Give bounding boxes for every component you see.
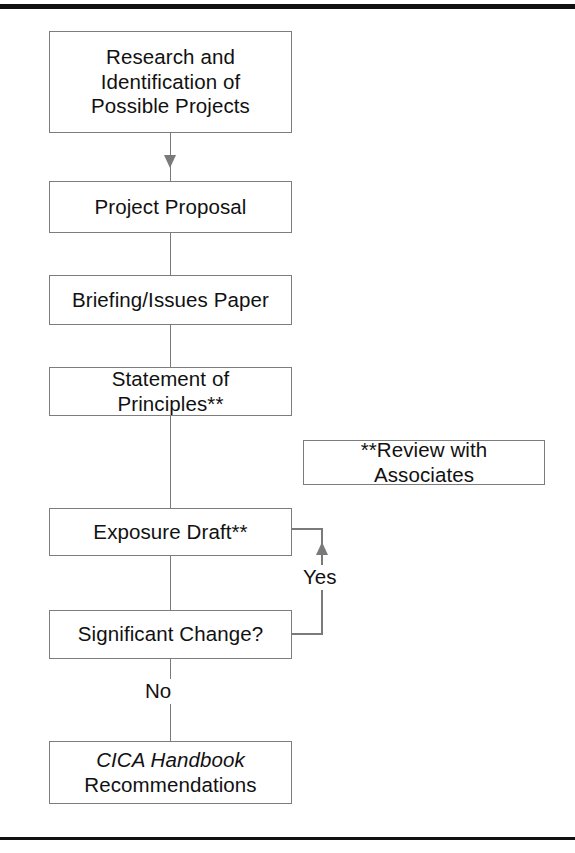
node-research[interactable]: Research and Identification of Possible … (49, 31, 292, 133)
node-review-with-associates-label: **Review with Associates (310, 438, 538, 487)
node-project-proposal-label: Project Proposal (94, 195, 246, 220)
loop-top-segment (292, 528, 323, 530)
edge-label-no: No (141, 679, 175, 704)
node-statement-of-principles-label: Statement of Principles** (56, 367, 285, 416)
flowchart-page: Research and Identification of Possible … (0, 0, 575, 853)
node-cica-handbook-label: CICA Handbook Recommendations (84, 748, 256, 797)
connector-principles-to-exposure (170, 416, 172, 508)
arrowhead-research-to-proposal (164, 155, 176, 168)
node-project-proposal[interactable]: Project Proposal (49, 181, 292, 233)
edge-label-yes: Yes (299, 565, 340, 590)
node-significant-change[interactable]: Significant Change? (49, 610, 292, 659)
node-statement-of-principles[interactable]: Statement of Principles** (49, 367, 292, 416)
arrowhead-loop-yes (316, 542, 328, 555)
node-briefing-issues-paper-label: Briefing/Issues Paper (72, 288, 269, 313)
bottom-rule (0, 837, 575, 840)
loop-bottom-segment (292, 633, 323, 635)
node-cica-handbook[interactable]: CICA Handbook Recommendations (49, 741, 292, 804)
connector-briefing-to-principles (170, 325, 172, 367)
node-briefing-issues-paper[interactable]: Briefing/Issues Paper (49, 275, 292, 325)
connector-proposal-to-briefing (170, 233, 172, 275)
node-significant-change-label: Significant Change? (78, 622, 263, 647)
node-exposure-draft-label: Exposure Draft** (93, 520, 247, 545)
top-rule (0, 4, 575, 9)
node-research-label: Research and Identification of Possible … (91, 45, 250, 119)
connector-exposure-to-significant (170, 556, 172, 610)
node-review-with-associates[interactable]: **Review with Associates (303, 440, 545, 485)
node-exposure-draft[interactable]: Exposure Draft** (49, 508, 292, 556)
